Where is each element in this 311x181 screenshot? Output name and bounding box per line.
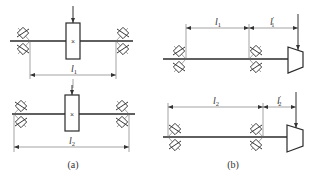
dimension-label-l2-prime: l′2 bbox=[277, 94, 282, 107]
panel-a-top: × l1 bbox=[10, 6, 133, 88]
dimension-label-l2: l2 bbox=[69, 135, 75, 147]
panel-a-bottom: × l2 (a) bbox=[12, 85, 135, 171]
bevel-gear bbox=[287, 125, 303, 152]
caption-b: (b) bbox=[227, 159, 239, 171]
bevel-gear bbox=[288, 47, 303, 73]
panel-b-bottom: l2 l′2 (b) bbox=[163, 92, 303, 171]
dimension-label-l1: l1 bbox=[71, 63, 77, 75]
load-marker: × bbox=[71, 38, 75, 45]
panel-b-top: l1 l′1 bbox=[163, 14, 303, 73]
load-marker: × bbox=[70, 111, 74, 118]
dimension-label-l1-prime: l′1 bbox=[270, 15, 275, 28]
caption-a: (a) bbox=[67, 159, 78, 171]
dimension-label-l1: l1 bbox=[215, 16, 221, 28]
shaft-support-diagram: × l1 × l2 (a) bbox=[0, 0, 311, 181]
dimension-label-l2: l2 bbox=[213, 95, 219, 107]
